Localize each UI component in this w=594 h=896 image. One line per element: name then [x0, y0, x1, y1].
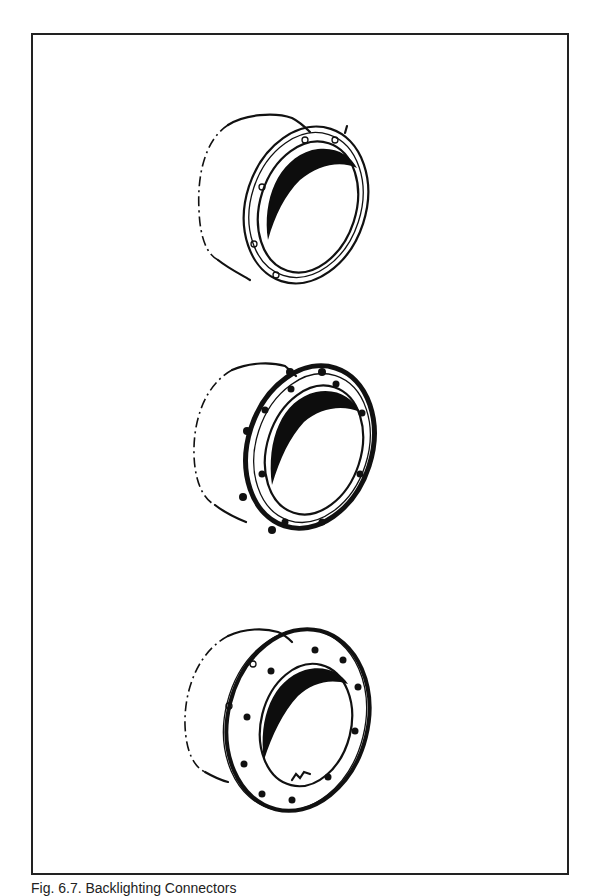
figure-caption: Fig. 6.7. Backlighting Connectors — [31, 880, 236, 896]
connector-3-drawing — [184, 614, 388, 826]
connector-2-drawing — [194, 349, 395, 545]
connector-1-drawing — [198, 110, 388, 299]
